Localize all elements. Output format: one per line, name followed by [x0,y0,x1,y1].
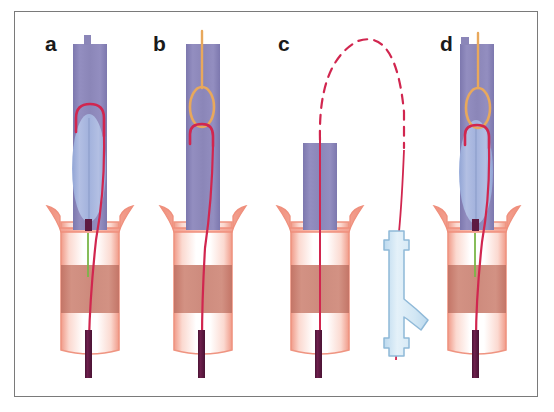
panel-d [434,33,520,378]
panel-b [160,31,246,378]
panel-a-retrograde-rod [85,330,92,378]
panel-label-d: d [440,33,453,54]
panel-a-sheath-top-nub [84,35,91,45]
panel-d-marker-stub-purple [472,219,479,231]
panel-c [277,39,428,378]
panel-d-sheath-top-nub [461,37,469,45]
panel-a-marker-stub-purple [85,219,92,231]
panel-c-retrograde-rod [315,330,322,378]
panel-c-haemostatic-y-connector [384,231,428,356]
panel-label-c: c [278,33,290,54]
panel-b-retrograde-rod [198,330,205,378]
panel-c-guidewire-dashed-arc [320,39,404,148]
panel-label-a: a [45,33,57,54]
panel-a [47,35,133,378]
figure-root: a b c d [0,0,554,412]
panel-d-retrograde-rod [472,330,479,378]
figure-illustration-canvas [0,0,554,412]
panel-label-b: b [153,33,166,54]
